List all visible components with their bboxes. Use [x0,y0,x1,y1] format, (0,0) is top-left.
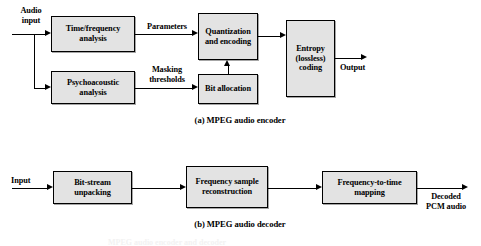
unpacking-to-reconstruction-line [132,188,180,189]
reconstruction-to-mapping-line [268,188,316,189]
box-entropy-lossless-coding-label: Entropy (lossless) coding [287,44,334,73]
box-frequency-sample-reconstruction[interactable]: Frequency sample reconstruction [186,166,268,208]
footer-clipped-text: MPEG audio encoder and decoder [108,238,226,246]
encoder-input-label: Audio input [8,6,54,26]
encoder-input-line [12,34,34,35]
decoder-output-line [417,188,462,189]
encoder-output-arrow [361,54,367,60]
box-psychoacoustic-analysis-label: Psychoacoustic analysis [52,78,134,98]
box-quantization-and-encoding-label: Quantization and encoding [199,27,257,47]
box-time-frequency-analysis[interactable]: Time/frequency analysis [51,16,135,52]
masking-thresholds-line [135,88,192,89]
encoder-input-branch-vline [34,34,35,88]
box-bit-stream-unpacking-label: Bit-stream unpacking [54,178,131,198]
box-psychoacoustic-analysis[interactable]: Psychoacoustic analysis [51,71,135,104]
box-time-frequency-analysis-label: Time/frequency analysis [52,24,134,44]
box-frequency-to-time-mapping-label: Frequency-to-time mapping [323,178,416,198]
bit-allocation-to-quantization-line [228,66,229,74]
encoder-output-line [335,58,361,59]
decoder-input-line [12,188,47,189]
parameters-line [135,34,192,35]
box-bit-allocation-label: Bit allocation [203,84,253,94]
edge-label-masking-thresholds: Masking thresholds [136,65,198,85]
box-entropy-lossless-coding[interactable]: Entropy (lossless) coding [286,20,335,97]
box-quantization-and-encoding[interactable]: Quantization and encoding [198,13,258,60]
box-frequency-to-time-mapping[interactable]: Frequency-to-time mapping [322,171,417,204]
bit-allocation-to-quantization-arrow [224,60,230,66]
encoder-caption: (a) MPEG audio encoder [150,115,330,125]
quantization-to-entropy-line [258,36,280,37]
edge-label-parameters: Parameters [136,22,198,32]
decoder-output-label: Decoded PCM audio [410,192,481,212]
decoder-output-arrow [462,184,468,190]
box-bit-stream-unpacking[interactable]: Bit-stream unpacking [53,171,132,204]
encoder-branch-top-line [34,34,45,35]
box-frequency-sample-reconstruction-label: Frequency sample reconstruction [187,177,267,197]
encoder-branch-bottom-line [34,88,45,89]
decoder-input-label: Input [11,176,51,186]
decoder-caption: (b) MPEG audio decoder [150,219,330,229]
encoder-output-label: Output [340,63,388,73]
box-bit-allocation[interactable]: Bit allocation [198,74,258,104]
figure-canvas: Audio input Time/frequency analysis Psyc… [0,0,481,246]
